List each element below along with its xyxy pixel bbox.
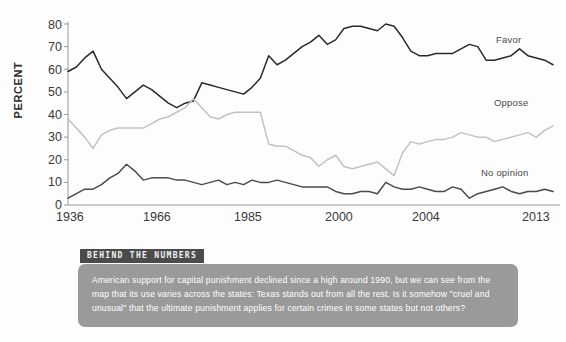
series-line-favor (68, 24, 553, 108)
behind-the-numbers-callout: BEHIND THE NUMBERS American support for … (78, 244, 518, 327)
series-line-oppose (68, 99, 553, 176)
series-line-no-opinion (68, 164, 553, 198)
plot-area (0, 0, 566, 232)
series-paths (68, 24, 553, 198)
callout-body-text: American support for capital punishment … (78, 264, 518, 327)
y-tick-marks (64, 24, 68, 205)
line-chart-figure: PERCENT 80 70 60 50 40 30 20 10 0 1936 1… (0, 0, 566, 232)
callout-tag-label: BEHIND THE NUMBERS (80, 249, 204, 263)
